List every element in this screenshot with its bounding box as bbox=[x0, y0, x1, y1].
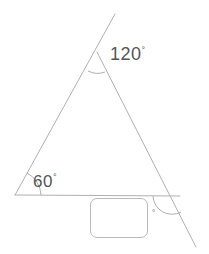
triangle-base-line bbox=[15, 195, 180, 196]
apex-degree-symbol: ° bbox=[142, 45, 146, 55]
geometry-figure-canvas: 120° 60° ° bbox=[0, 0, 209, 254]
base-left-angle-label: 60° bbox=[33, 173, 57, 190]
apex-angle-arc bbox=[88, 71, 105, 73]
unknown-degree-symbol-label: ° bbox=[152, 209, 155, 217]
exterior-angle-arc bbox=[153, 196, 181, 214]
triangle-left-side-line bbox=[15, 14, 115, 195]
base-left-degree-symbol: ° bbox=[53, 172, 57, 182]
apex-angle-value: 120 bbox=[110, 44, 142, 64]
apex-angle-label: 120° bbox=[110, 45, 145, 63]
base-left-angle-value: 60 bbox=[33, 172, 53, 191]
answer-input[interactable] bbox=[90, 198, 148, 238]
